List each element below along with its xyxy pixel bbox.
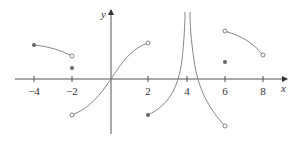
closed-point (146, 113, 150, 117)
segment-1 (34, 45, 72, 56)
tick-label: 8 (260, 85, 266, 97)
segment-3 (148, 12, 185, 115)
segment-4 (190, 12, 225, 126)
open-point (223, 124, 227, 128)
tick-label: −4 (28, 85, 40, 97)
open-point (223, 29, 227, 33)
tick-label: 2 (145, 85, 151, 97)
tick-label: 4 (184, 85, 190, 97)
graph-canvas: −4 −2 2 4 6 8 x y (0, 0, 297, 142)
open-point (146, 41, 150, 45)
tick-label: 6 (222, 85, 228, 97)
curve-segments (34, 12, 263, 126)
closed-point (223, 60, 227, 64)
tick-label: −2 (66, 85, 78, 97)
segment-5 (225, 31, 263, 55)
function-graph: −4 −2 2 4 6 8 x y (0, 0, 297, 142)
y-axis-label: y (100, 8, 106, 20)
open-point (261, 53, 265, 57)
closed-point (70, 66, 74, 70)
open-point (70, 54, 74, 58)
x-axis-label: x (280, 82, 286, 94)
open-point (70, 113, 74, 117)
closed-point (32, 43, 36, 47)
